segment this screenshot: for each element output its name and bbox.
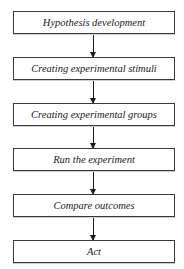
step-label: Compare outcomes — [54, 200, 135, 211]
arrow-down-icon — [93, 172, 94, 194]
step-compare-outcomes: Compare outcomes — [13, 194, 175, 217]
step-run-the-experiment: Run the experiment — [13, 148, 175, 171]
step-hypothesis-development: Hypothesis development — [13, 11, 175, 34]
arrow-down-icon — [93, 218, 94, 240]
step-act: Act — [13, 240, 175, 263]
arrow-down-icon — [93, 127, 94, 148]
arrow-down-icon — [93, 81, 94, 103]
step-creating-experimental-groups: Creating experimental groups — [13, 103, 175, 126]
step-label: Act — [87, 246, 101, 257]
step-label: Creating experimental groups — [31, 109, 157, 120]
arrow-down-icon — [93, 35, 94, 57]
step-creating-experimental-stimuli: Creating experimental stimuli — [13, 57, 175, 80]
step-label: Run the experiment — [53, 154, 135, 165]
step-label: Hypothesis development — [43, 17, 145, 28]
step-label: Creating experimental stimuli — [31, 63, 157, 74]
